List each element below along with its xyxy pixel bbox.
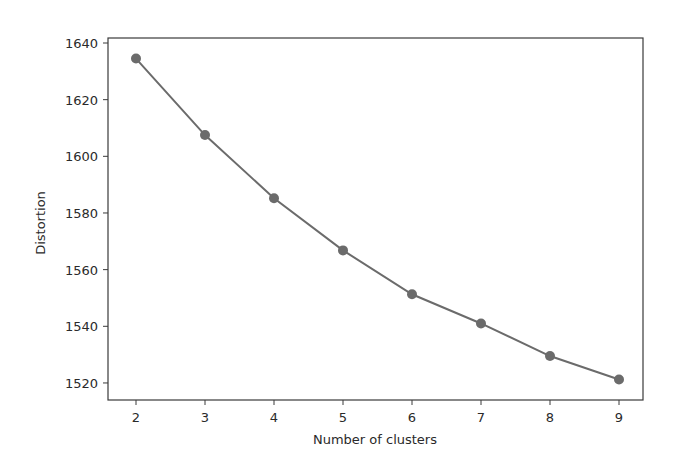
data-point-marker	[200, 130, 210, 140]
x-tick-label: 2	[132, 410, 140, 425]
y-axis-ticks: 1520154015601580160016201640	[65, 36, 108, 391]
data-point-marker	[476, 318, 486, 328]
x-axis-label: Number of clusters	[313, 432, 437, 447]
x-tick-label: 6	[408, 410, 416, 425]
data-point-marker	[131, 54, 141, 64]
data-point-marker	[614, 375, 624, 385]
y-tick-label: 1580	[65, 206, 98, 221]
data-point-marker	[338, 245, 348, 255]
plot-area-frame	[108, 38, 643, 400]
data-point-marker	[407, 289, 417, 299]
y-tick-label: 1540	[65, 319, 98, 334]
x-tick-label: 3	[201, 410, 209, 425]
y-tick-label: 1640	[65, 36, 98, 51]
x-tick-label: 7	[477, 410, 485, 425]
y-tick-label: 1560	[65, 263, 98, 278]
y-axis-label: Distortion	[33, 191, 48, 255]
y-tick-label: 1620	[65, 93, 98, 108]
x-tick-label: 5	[339, 410, 347, 425]
line-chart: 1520154015601580160016201640 23456789 Nu…	[0, 0, 676, 473]
data-point-marker	[269, 193, 279, 203]
x-tick-label: 8	[546, 410, 554, 425]
x-axis-ticks: 23456789	[132, 400, 623, 425]
x-tick-label: 9	[615, 410, 623, 425]
x-tick-label: 4	[270, 410, 278, 425]
y-tick-label: 1600	[65, 149, 98, 164]
y-tick-label: 1520	[65, 376, 98, 391]
data-point-marker	[545, 351, 555, 361]
